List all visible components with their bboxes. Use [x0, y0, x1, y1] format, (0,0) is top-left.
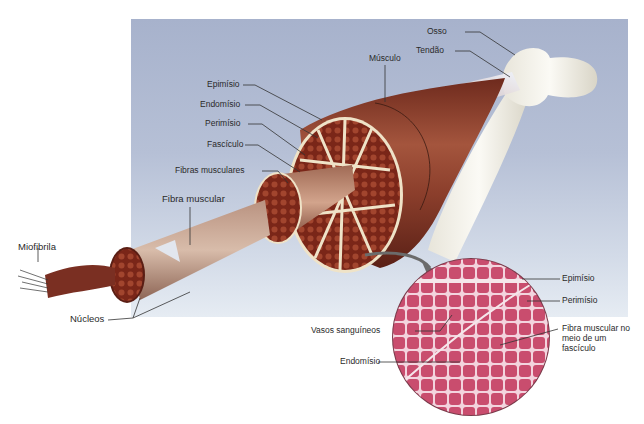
- micro-label-fiber-in-fascicle: Fibra muscular no meio de um fascículo: [562, 324, 632, 353]
- label-perimysium: Perimísio: [205, 119, 240, 129]
- label-endomysium: Endomísio: [200, 100, 240, 110]
- myofibril: [45, 265, 115, 298]
- label-epimysium: Epimísio: [207, 80, 240, 90]
- label-fascicle: Fascículo: [207, 140, 243, 150]
- label-muscle-fibers: Fibras musculares: [175, 166, 244, 176]
- myofilaments: [18, 270, 48, 292]
- micrograph: [390, 255, 555, 420]
- label-bone: Osso: [427, 27, 447, 37]
- label-muscle-fiber: Fibra muscular: [162, 194, 225, 205]
- label-tendon: Tendão: [416, 46, 444, 56]
- micro-label-blood-vessels: Vasos sanguíneos: [311, 326, 380, 336]
- muscle-anatomy-illustration: [0, 0, 644, 424]
- micro-label-perimysium: Perimísio: [562, 296, 597, 306]
- label-muscle: Músculo: [369, 54, 401, 64]
- label-nuclei: Núcleos: [70, 314, 104, 325]
- label-myofibril: Miofibrila: [18, 242, 56, 253]
- micro-label-epimysium: Epimísio: [562, 274, 595, 284]
- muscle-fiber: [130, 200, 270, 300]
- micro-label-endomysium: Endomísio: [340, 357, 380, 367]
